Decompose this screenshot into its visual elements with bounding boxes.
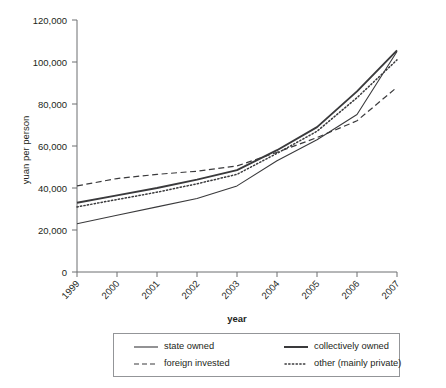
y-tick-label: 80,000 xyxy=(38,99,67,110)
x-tick-label: 2002 xyxy=(179,278,201,301)
x-tick-label: 1999 xyxy=(59,278,81,301)
legend-swatch-solid-thick-icon xyxy=(284,342,308,352)
series-group xyxy=(77,50,397,223)
series-collectively-owned xyxy=(77,50,397,202)
legend-label: foreign invested xyxy=(164,359,230,368)
x-axis-ticks xyxy=(77,272,397,277)
y-tick-label: 0 xyxy=(62,267,67,278)
legend-label: collectively owned xyxy=(314,342,389,351)
y-tick-label: 100,000 xyxy=(33,57,67,68)
legend-label: state owned xyxy=(164,342,214,351)
x-tick-label: 2005 xyxy=(299,278,321,301)
y-tick-label: 40,000 xyxy=(38,183,67,194)
legend-item-state-owned: state owned xyxy=(134,342,284,352)
legend-item-foreign-invested: foreign invested xyxy=(134,359,284,369)
x-tick-label: 2001 xyxy=(139,278,161,301)
x-tick-labels: 1999 2000 2001 2002 2003 2004 2005 2006 … xyxy=(59,278,401,301)
legend-swatch-dotted-icon xyxy=(284,359,308,369)
y-tick-labels: 120,000 100,000 80,000 60,000 40,000 20,… xyxy=(33,15,67,278)
line-chart: yuan per person 120,000 100,000 80,000 6… xyxy=(0,0,446,388)
x-tick-label: 2000 xyxy=(99,278,121,301)
x-tick-label: 2007 xyxy=(379,278,401,301)
chart-canvas: yuan per person 120,000 100,000 80,000 6… xyxy=(0,0,446,388)
series-other-mainly-private xyxy=(77,60,397,207)
y-tick-label: 20,000 xyxy=(38,225,67,236)
legend-swatch-dashed-icon xyxy=(134,359,158,369)
y-tick-label: 120,000 xyxy=(33,15,67,26)
legend: state owned collectively owned foreign i… xyxy=(113,333,400,377)
y-tick-label: 60,000 xyxy=(38,141,67,152)
legend-item-other-mainly-private: other (mainly private) xyxy=(284,359,421,369)
legend-item-collectively-owned: collectively owned xyxy=(284,342,421,352)
x-tick-label: 2003 xyxy=(219,278,241,301)
x-tick-label: 2004 xyxy=(259,278,281,301)
x-axis-title: year xyxy=(227,313,247,324)
legend-swatch-solid-thin-icon xyxy=(134,342,158,352)
y-axis-title: yuan per person xyxy=(20,116,31,185)
y-axis-ticks xyxy=(72,20,77,272)
x-tick-label: 2006 xyxy=(339,278,361,301)
legend-label: other (mainly private) xyxy=(314,359,401,368)
